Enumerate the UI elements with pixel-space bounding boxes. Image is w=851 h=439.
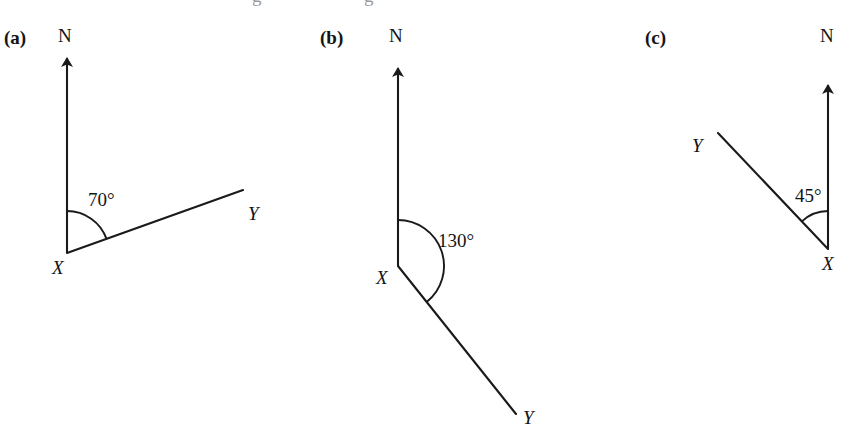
angle-arc-a — [67, 211, 107, 239]
north-label-c: N — [820, 26, 834, 45]
clipped-text-artifact-left: g — [252, 0, 262, 5]
angle-label-a: 70° — [88, 190, 115, 209]
vertex-label-a: X — [52, 258, 64, 277]
angle-label-c: 45° — [795, 186, 822, 205]
angle-label-b: 130° — [438, 231, 474, 250]
clipped-text-artifact-right: g — [364, 0, 374, 5]
ray-label-b: Y — [523, 408, 534, 427]
part-label-c: (c) — [645, 28, 666, 47]
diagram-c — [718, 85, 828, 249]
bearing-ray-b — [398, 266, 516, 414]
ray-label-c: Y — [692, 136, 703, 155]
ray-label-a: Y — [248, 204, 259, 223]
diagram-a — [67, 58, 243, 253]
north-label-a: N — [58, 26, 72, 45]
bearings-figure — [0, 0, 851, 439]
part-label-b: (b) — [320, 28, 343, 47]
vertex-label-b: X — [376, 268, 388, 287]
angle-arc-c — [802, 211, 828, 221]
vertex-label-c: X — [822, 254, 834, 273]
north-label-b: N — [389, 26, 403, 45]
part-label-a: (a) — [4, 28, 26, 47]
